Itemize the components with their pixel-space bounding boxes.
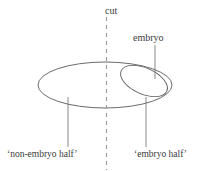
- non-embryo-half-label: ‘non-embryo half’: [7, 150, 77, 160]
- figure-canvas: cut embryo ‘non-embryo half’ ‘embryo hal…: [0, 0, 207, 171]
- embryo-half-label: ‘embryo half’: [134, 150, 187, 160]
- embryo-label: embryo: [133, 33, 164, 43]
- egg-outline-ellipse: [38, 62, 172, 108]
- diagram-svg: [0, 0, 207, 171]
- cut-label: cut: [105, 6, 117, 16]
